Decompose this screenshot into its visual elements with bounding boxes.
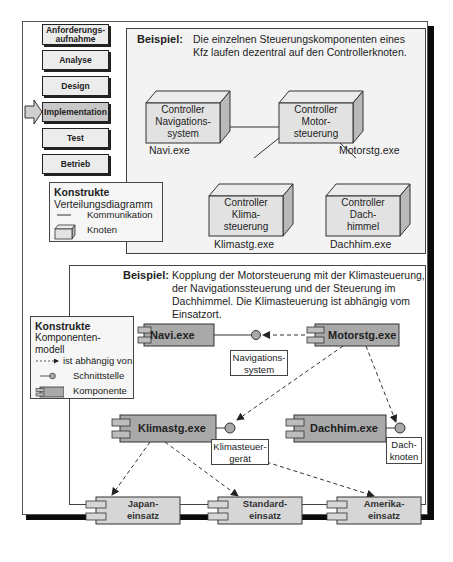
lollipop-icon: [40, 373, 55, 379]
component-dach-label: Dachhim.exe: [310, 422, 378, 435]
interface-navsys: [252, 331, 261, 340]
interface-klimageraet-label: Klimasteuer-gerät: [211, 439, 269, 465]
component-navi-label: Navi.exe: [150, 329, 195, 342]
component-motor-label: Motorstg.exe: [328, 329, 396, 342]
interface-dachknoten: [395, 423, 405, 433]
legend-subtitle: Komponenten-modell: [35, 332, 101, 355]
interface-navsys-label: Navigations-system: [230, 350, 288, 376]
interface-dachknoten-label: Dach-knoten: [386, 437, 422, 464]
legend-item-komponente: Komponente: [73, 385, 127, 398]
component-amerika-label: Amerika-einsatz: [347, 498, 421, 522]
legend-icons: [34, 356, 64, 398]
component-icon: [36, 387, 64, 397]
legend-item-abhaengig: ist abhängig von: [63, 355, 132, 368]
component-klima-label: Klimastg.exe: [138, 422, 206, 435]
legend-title: Konstrukte: [35, 320, 90, 333]
component-diagram: [0, 0, 453, 562]
component-japan-label: Japan-einsatz: [106, 498, 180, 522]
interface-klimageraet: [225, 423, 235, 433]
legend-item-schnittstelle: Schnittstelle: [73, 370, 124, 383]
component-standard-label: Standard-einsatz: [228, 498, 302, 522]
